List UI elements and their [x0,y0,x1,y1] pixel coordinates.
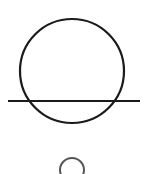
large-circle [20,19,124,123]
diagram-canvas [0,0,155,174]
small-circle [60,158,84,174]
